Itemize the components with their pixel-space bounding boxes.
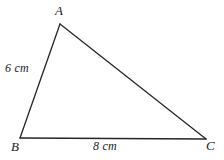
side-length-label-ab: 6 cm [5,62,29,74]
vertex-label-c: C [206,139,215,152]
vertex-label-b: B [11,140,19,153]
vertex-label-a: A [55,4,63,17]
side-length-label-bc: 8 cm [93,140,117,152]
triangle-drawing [0,0,224,160]
figure-background [0,0,224,160]
geometry-figure: A B C 6 cm 8 cm [0,0,224,160]
